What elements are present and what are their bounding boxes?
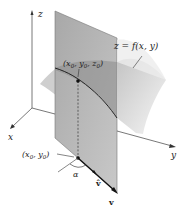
angle-alpha-label: α — [73, 170, 79, 179]
diagram-canvas: z x y z = f(x, y) (x0, y0, z0) (x0, y0) … — [0, 0, 179, 208]
surface-label: z = f(x, y) — [113, 41, 159, 51]
y-axis-label: y — [170, 150, 177, 160]
point2d-label-pointer — [57, 154, 74, 157]
unit-vector-label: v̂ — [95, 178, 101, 188]
x-axis-label: x — [8, 132, 13, 142]
z-axis-label: z — [37, 9, 43, 19]
point-2d-label: (x0, y0) — [22, 150, 49, 160]
vector-label: v — [108, 197, 114, 207]
x-axis — [10, 108, 32, 129]
surface-point — [76, 79, 80, 83]
diagram-svg: z x y z = f(x, y) (x0, y0, z0) (x0, y0) … — [0, 0, 179, 208]
z-axis — [31, 10, 34, 108]
angle-arc — [70, 164, 86, 167]
